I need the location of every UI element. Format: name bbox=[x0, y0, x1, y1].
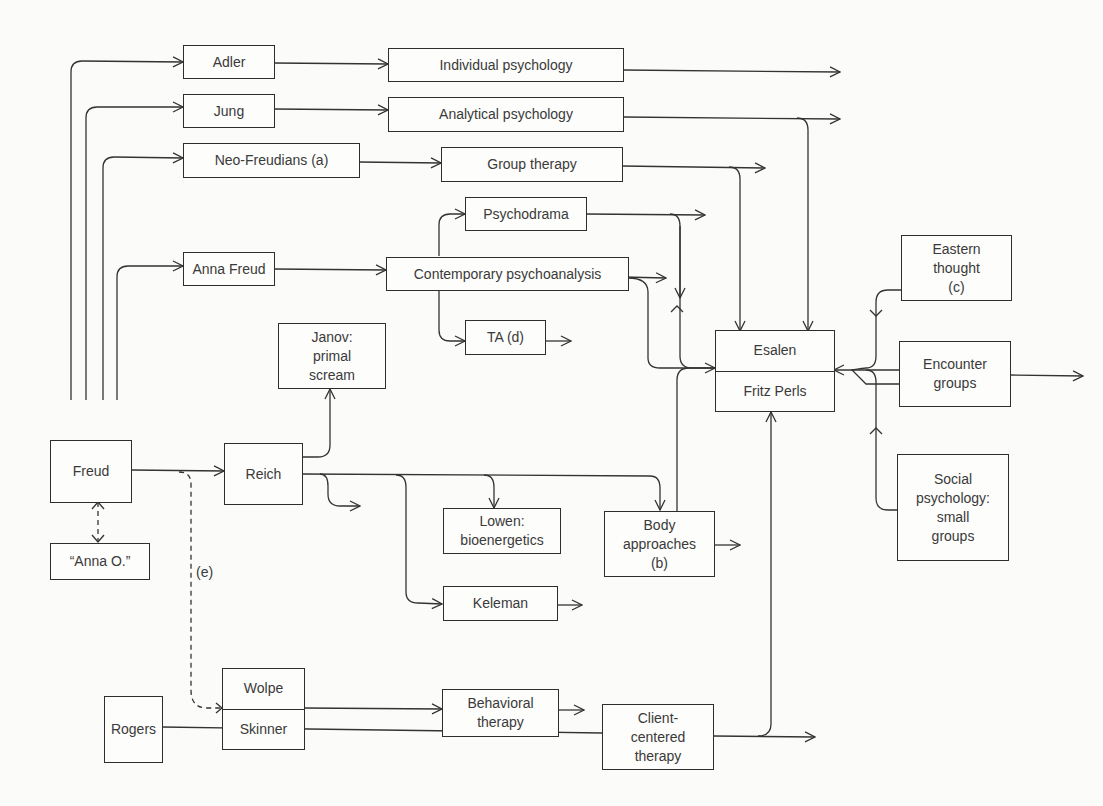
node-behavioral-therapy: Behavioral therapy bbox=[442, 689, 559, 737]
node-label: Body approaches (b) bbox=[623, 516, 696, 573]
node-encounter-groups: Encounter groups bbox=[899, 341, 1011, 407]
node-group-therapy: Group therapy bbox=[441, 147, 623, 182]
node-social-psychology-small-groups: Social psychology: small groups bbox=[897, 454, 1009, 561]
node-anna-freud: Anna Freud bbox=[183, 252, 275, 286]
node-psychodrama: Psychodrama bbox=[465, 197, 587, 231]
node-label: Social psychology: small groups bbox=[916, 470, 990, 546]
node-label: Neo-Freudians (a) bbox=[215, 151, 329, 170]
node-esalen-fritz-perls: Esalen Fritz Perls bbox=[715, 330, 835, 412]
node-individual-psychology: Individual psychology bbox=[388, 48, 624, 82]
node-eastern-thought: Eastern thought (c) bbox=[901, 235, 1012, 301]
node-label: Skinner bbox=[240, 720, 287, 739]
node-label: Wolpe bbox=[244, 679, 283, 698]
node-body-approaches: Body approaches (b) bbox=[604, 511, 715, 577]
node-wolpe-skinner: Wolpe Skinner bbox=[222, 668, 305, 750]
node-lowen-bioenergetics: Lowen: bioenergetics bbox=[443, 508, 561, 554]
node-label: Janov: primal scream bbox=[309, 328, 355, 385]
node-label: Psychodrama bbox=[483, 205, 569, 224]
edge-label-e: (e) bbox=[196, 564, 213, 580]
node-rogers: Rogers bbox=[104, 696, 163, 763]
node-label: Fritz Perls bbox=[744, 382, 807, 401]
node-skinner: Skinner bbox=[223, 710, 304, 750]
node-label: Jung bbox=[214, 102, 244, 121]
node-keleman: Keleman bbox=[443, 586, 558, 621]
node-label: Group therapy bbox=[487, 155, 577, 174]
node-anna-o: “Anna O.” bbox=[50, 543, 150, 580]
node-label: Encounter groups bbox=[923, 355, 987, 393]
node-label: Reich bbox=[246, 465, 282, 484]
node-label: Behavioral therapy bbox=[467, 694, 533, 732]
node-label: Adler bbox=[213, 53, 246, 72]
node-label: Keleman bbox=[473, 594, 528, 613]
node-fritz-perls: Fritz Perls bbox=[716, 372, 834, 412]
node-label: Freud bbox=[73, 462, 110, 481]
node-freud: Freud bbox=[50, 440, 132, 503]
diagram-canvas: Adler Jung Neo-Freudians (a) Anna Freud … bbox=[0, 0, 1103, 806]
node-reich: Reich bbox=[224, 443, 303, 505]
node-label: Esalen bbox=[754, 341, 797, 360]
node-wolpe: Wolpe bbox=[223, 669, 304, 710]
node-client-centered-therapy: Client- centered therapy bbox=[602, 704, 714, 770]
node-label: Analytical psychology bbox=[439, 105, 573, 124]
node-analytical-psychology: Analytical psychology bbox=[388, 97, 624, 132]
node-label: Client- centered therapy bbox=[631, 709, 685, 766]
node-esalen: Esalen bbox=[716, 331, 834, 372]
node-contemporary-psychoanalysis: Contemporary psychoanalysis bbox=[386, 257, 629, 291]
node-label: Contemporary psychoanalysis bbox=[414, 265, 602, 284]
node-label: Rogers bbox=[111, 720, 156, 739]
node-janov-primal-scream: Janov: primal scream bbox=[278, 323, 386, 389]
node-label: Eastern thought (c) bbox=[932, 240, 980, 297]
node-adler: Adler bbox=[183, 45, 275, 79]
node-label: Individual psychology bbox=[439, 56, 572, 75]
node-label: TA (d) bbox=[487, 328, 524, 347]
node-label: Anna Freud bbox=[192, 260, 265, 279]
node-label: “Anna O.” bbox=[70, 552, 131, 571]
node-ta: TA (d) bbox=[465, 320, 546, 355]
node-neo-freudians: Neo-Freudians (a) bbox=[183, 143, 360, 178]
node-jung: Jung bbox=[183, 94, 275, 128]
node-label: Lowen: bioenergetics bbox=[460, 512, 543, 550]
